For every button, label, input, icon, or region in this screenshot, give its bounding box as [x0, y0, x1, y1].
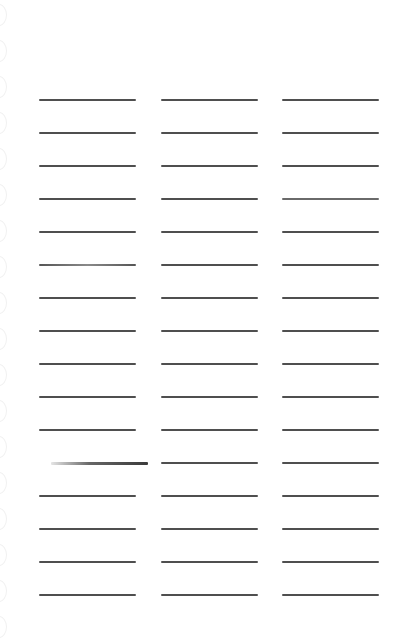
- answer-line: [161, 462, 258, 464]
- binder-ring-icon: [0, 580, 7, 602]
- answer-line: [39, 528, 136, 530]
- answer-line: [282, 330, 379, 332]
- worksheet-page: [0, 0, 401, 642]
- answer-line: [161, 264, 258, 266]
- binder-ring-icon: [0, 256, 7, 278]
- answer-line: [282, 264, 379, 266]
- answer-line: [39, 330, 136, 332]
- binder-ring-icon: [0, 112, 7, 134]
- answer-column-1: [39, 0, 136, 642]
- binder-ring-icon: [0, 292, 7, 314]
- answer-line: [39, 165, 136, 167]
- answer-line: [39, 363, 136, 365]
- answer-line: [39, 231, 136, 233]
- binder-ring-icon: [0, 400, 7, 422]
- answer-line: [39, 198, 136, 200]
- answer-line: [282, 561, 379, 563]
- answer-line: [39, 495, 136, 497]
- answer-line: [161, 297, 258, 299]
- binder-ring-icon: [0, 184, 7, 206]
- answer-line: [39, 297, 136, 299]
- answer-line: [39, 429, 136, 431]
- answer-line: [282, 429, 379, 431]
- answer-line: [39, 561, 136, 563]
- answer-line: [161, 231, 258, 233]
- answer-line: [282, 462, 379, 464]
- binder-ring-icon: [0, 4, 7, 26]
- binder-edge: [0, 0, 9, 642]
- answer-line: [282, 132, 379, 134]
- answer-line: [161, 363, 258, 365]
- answer-line: [282, 198, 379, 200]
- answer-line: [161, 561, 258, 563]
- binder-ring-icon: [0, 76, 7, 98]
- answer-line: [161, 594, 258, 596]
- answer-line: [161, 528, 258, 530]
- answer-line: [51, 462, 148, 465]
- binder-ring-icon: [0, 436, 7, 458]
- answer-line: [161, 330, 258, 332]
- answer-line: [161, 429, 258, 431]
- answer-line: [161, 132, 258, 134]
- binder-ring-icon: [0, 148, 7, 170]
- answer-column-2: [161, 0, 258, 642]
- answer-column-3: [282, 0, 379, 642]
- answer-line: [39, 132, 136, 134]
- binder-ring-icon: [0, 616, 7, 638]
- answer-line: [282, 297, 379, 299]
- answer-line: [161, 198, 258, 200]
- answer-line: [39, 594, 136, 596]
- answer-line: [282, 594, 379, 596]
- answer-line: [282, 363, 379, 365]
- answer-line: [39, 99, 136, 101]
- answer-line: [39, 264, 136, 266]
- answer-line: [282, 165, 379, 167]
- binder-ring-icon: [0, 364, 7, 386]
- binder-ring-icon: [0, 328, 7, 350]
- answer-line: [282, 231, 379, 233]
- binder-ring-icon: [0, 544, 7, 566]
- answer-line: [161, 165, 258, 167]
- answer-line: [161, 99, 258, 101]
- answer-line: [39, 396, 136, 398]
- answer-line: [282, 495, 379, 497]
- binder-ring-icon: [0, 220, 7, 242]
- binder-ring-icon: [0, 40, 7, 62]
- binder-ring-icon: [0, 472, 7, 494]
- answer-line: [282, 528, 379, 530]
- answer-line: [161, 396, 258, 398]
- answer-line: [161, 495, 258, 497]
- answer-line: [282, 99, 379, 101]
- answer-line: [282, 396, 379, 398]
- binder-ring-icon: [0, 508, 7, 530]
